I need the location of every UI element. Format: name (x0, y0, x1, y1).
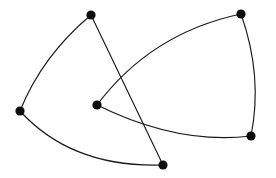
graph-vertex-top-left (86, 10, 95, 19)
graph-edge-v1-v6 (91, 15, 163, 165)
vertex-layer (15, 9, 255, 169)
graph-vertex-top-right (236, 9, 245, 18)
graph-vertex-right (246, 131, 255, 140)
graph-edge-v3-v1 (20, 15, 91, 111)
graph-edge-v4-v2 (97, 14, 241, 105)
edge-layer (20, 14, 255, 165)
graph-edge-v2-v5 (241, 14, 255, 136)
graph-vertex-center (92, 100, 101, 109)
graph-vertex-bottom (158, 160, 167, 169)
graph-edge-v4-v5 (97, 105, 251, 138)
graph-figure (0, 0, 276, 178)
graph-canvas (0, 0, 276, 178)
graph-vertex-left (15, 106, 24, 115)
